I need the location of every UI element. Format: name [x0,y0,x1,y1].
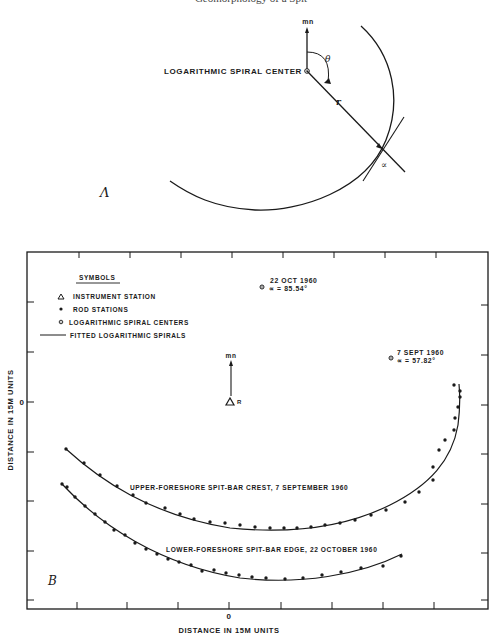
legend-item-spirals: FITTED LOGARITHMIC SPIRALS [70,332,186,339]
upper-fitted-spiral [66,384,460,530]
panel-a-north-label: mn [302,18,314,25]
oct-center-alpha: ∝ = 85.54° [269,285,307,292]
panel-b-label: B [47,574,57,588]
y-axis-label: DISTANCE IN 15M UNITS [6,369,15,470]
legend-item-centers: LOGARITHMIC SPIRAL CENTERS [69,319,189,326]
left-ticks [27,302,34,600]
alpha-label: ∝ [381,160,387,170]
y-zero-label: 0 [19,398,24,407]
theta-arrowhead-icon [324,78,331,84]
panel-a: mn LOGARITHMIC SPIRAL CENTER θ r ∝ Λ [99,18,405,210]
lower-curve-label: LOWER-FORESHORE SPIT-BAR EDGE, 22 OCTOBE… [166,546,377,554]
header-fragment: Geomorphology of a Spit [195,0,307,4]
right-ticks [481,305,488,600]
sept-center-alpha: ∝ = 57.82° [397,357,435,364]
tangent-line [363,117,404,181]
instrument-station-icon [226,398,234,405]
panel-b: 0 DISTANCE IN 15M UNITS 0 DISTANCE IN 15… [6,252,488,635]
panel-a-center-label: LOGARITHMIC SPIRAL CENTER [164,67,302,76]
north-arrowhead-icon [229,360,233,366]
lower-fitted-spiral [62,484,402,580]
x-axis-label: DISTANCE IN 15M UNITS [178,626,279,635]
legend-title: SYMBOLS [79,274,115,281]
legend: SYMBOLS INSTRUMENT STATION ROD STATIONS … [40,274,189,339]
panel-b-north-label: mn [226,352,237,359]
oct-center-date: 22 OCT 1960 [270,277,317,284]
dot-icon [59,307,62,310]
radius-line [307,71,405,172]
x-zero-label: 0 [226,612,231,621]
theta-label: θ [325,54,331,64]
upper-rod-stations [64,383,461,529]
sept-center-date: 7 SEPT 1960 [397,349,444,356]
instrument-label: R [237,399,242,405]
triangle-icon [58,294,64,299]
panel-a-spiral-arc [170,26,394,210]
bottom-ticks [77,602,434,609]
lower-rod-stations [60,482,402,580]
north-arrowhead-icon [305,27,309,33]
top-ticks [79,252,436,258]
figure: Geomorphology of a Spit mn LOGARITHMIC S… [0,0,502,637]
upper-curve-label: UPPER-FORESHORE SPIT-BAR CREST, 7 SEPTEM… [130,484,348,492]
legend-item-instrument: INSTRUMENT STATION [73,293,156,300]
panel-a-label: Λ [99,185,109,200]
legend-item-rod: ROD STATIONS [73,306,128,313]
